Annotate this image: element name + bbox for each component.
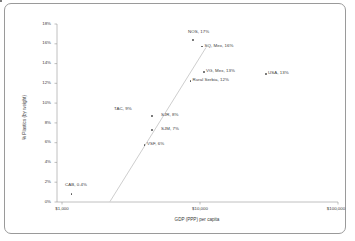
- point-label-sq-mex: SQ, Mex, 16%: [205, 44, 234, 48]
- y-tick-18: 18%: [29, 22, 51, 26]
- y-axis-title: % Plastics (by weight): [23, 95, 28, 140]
- point-label-tac: TAC, 9%: [114, 107, 132, 111]
- chart-figure: 0% 2% 4% 6% 8% 10% 12% 14% 16% 18% $1,00…: [0, 0, 355, 241]
- y-tick-12: 12%: [29, 81, 51, 85]
- point-label-usa: USA, 13%: [268, 71, 289, 75]
- trend-line: [110, 48, 206, 202]
- data-point-usa[interactable]: [265, 73, 267, 75]
- point-label-cab: CAB, 0.4%: [65, 183, 87, 187]
- point-label-nos: NOS, 17%: [188, 30, 209, 34]
- x-tick-100000: $100,000: [311, 207, 355, 211]
- point-label-sjm: SJM, 7%: [161, 127, 179, 131]
- y-tick-10: 10%: [29, 101, 51, 105]
- y-tick-4: 4%: [29, 160, 51, 164]
- y-axis-ticks: [55, 24, 58, 202]
- x-axis-ticks: [62, 202, 338, 205]
- point-label-vg-mex: VG, Mex, 13%: [206, 69, 235, 73]
- y-tick-2: 2%: [29, 180, 51, 184]
- point-label-vsf: VSF, 6%: [147, 142, 164, 146]
- data-point-vg-mex[interactable]: [0, 0, 2, 2]
- y-tick-0: 0%: [29, 200, 51, 204]
- data-point-tac-sjr[interactable]: [151, 115, 153, 117]
- y-tick-6: 6%: [29, 140, 51, 144]
- point-label-sjr: SJR, 8%: [161, 113, 178, 117]
- data-point-vg-mex-2[interactable]: [203, 71, 205, 73]
- y-tick-14: 14%: [29, 61, 51, 65]
- x-tick-1000: $1,000: [37, 207, 87, 211]
- plot-canvas: [0, 0, 355, 241]
- y-tick-16: 16%: [29, 41, 51, 45]
- x-axis-title: GDP (PPP) per capita: [137, 218, 257, 223]
- data-point-nos[interactable]: [192, 39, 194, 41]
- point-label-rural-serbia: Rural Serbia, 12%: [193, 78, 229, 82]
- x-tick-10000: $10,000: [175, 207, 225, 211]
- y-tick-8: 8%: [29, 121, 51, 125]
- data-point-sjm[interactable]: [151, 129, 153, 131]
